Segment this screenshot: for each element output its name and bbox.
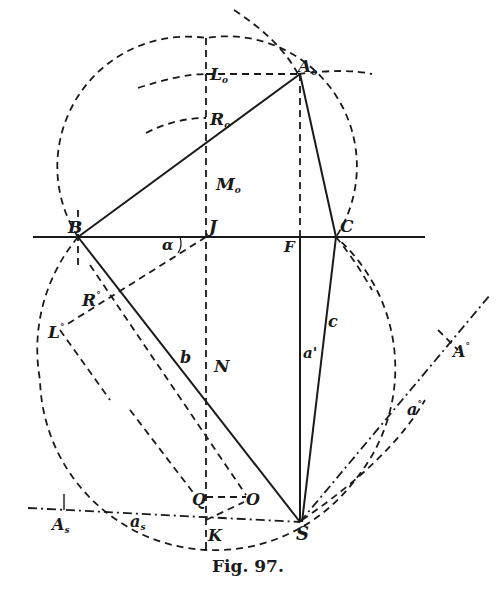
- label-K: K: [207, 526, 223, 545]
- label-Adeg: A°: [451, 341, 470, 361]
- diagram-labels: Ao Lo Ro Mo B J F C α R° L° N b a' c A° …: [0, 0, 500, 591]
- label-As: As: [50, 515, 70, 535]
- label-Rdeg: R°: [81, 290, 101, 310]
- label-L0: Lo: [209, 64, 228, 85]
- label-N: N: [213, 356, 231, 376]
- figure-caption: Fig. 97.: [212, 556, 284, 576]
- label-J: J: [206, 216, 218, 236]
- label-S: S: [296, 523, 309, 544]
- label-R0: Ro: [209, 109, 230, 130]
- label-A0: Ao: [296, 56, 317, 77]
- label-M0: Mo: [215, 174, 241, 195]
- label-C: C: [340, 216, 354, 236]
- label-Q: Q: [192, 490, 206, 509]
- label-alpha: α: [162, 236, 174, 254]
- label-as: as: [130, 512, 145, 532]
- label-B: B: [67, 217, 82, 237]
- label-adeg: a°: [407, 399, 422, 419]
- label-Ldeg: L°: [47, 322, 64, 342]
- label-c: c: [328, 312, 338, 331]
- label-F: F: [283, 238, 296, 256]
- label-O: O: [246, 490, 260, 509]
- label-aprime: a': [303, 344, 317, 362]
- label-b: b: [180, 348, 191, 367]
